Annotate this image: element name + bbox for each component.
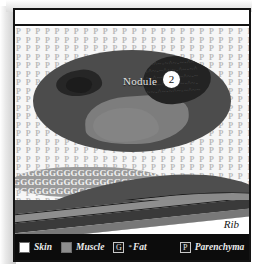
- anatomy-figure: P P P P P P P P P P P P P P P P P P P P …: [0, 0, 257, 270]
- legend-fat-marker: *: [128, 243, 132, 251]
- legend-swatch-parenchyma-icon: P: [180, 242, 191, 253]
- nodule-shape: ~~^~-~^~-~-^~~ -^~-~^~~-^~-~^ ~-^~~-^~-~…: [33, 50, 231, 152]
- rib-label: Rib: [224, 218, 239, 230]
- legend-item-skin: Skin: [19, 242, 52, 253]
- legend-label-muscle: Muscle: [76, 242, 105, 252]
- legend-swatch-fat-icon: G: [113, 242, 124, 253]
- legend-item-muscle: Muscle: [61, 242, 105, 253]
- nodule-dark-blob-left-core: [66, 77, 92, 93]
- skin-layer-band: [15, 10, 249, 26]
- legend-label-skin: Skin: [34, 242, 52, 252]
- nodule-number-badge: 2: [163, 71, 180, 88]
- tissue-canvas: P P P P P P P P P P P P P P P P P P P P …: [15, 28, 249, 218]
- legend-label-parenchyma: Parenchyma: [195, 242, 245, 252]
- nodule-inner-core: [93, 108, 159, 142]
- figure-frame: P P P P P P P P P P P P P P P P P P P P …: [13, 8, 251, 262]
- legend-bar: Skin Muscle G * Fat P Parenchyma: [15, 234, 249, 260]
- nodule-label: Nodule: [123, 75, 157, 87]
- legend-swatch-skin-icon: [19, 242, 30, 253]
- legend-item-fat: G * Fat: [113, 242, 146, 253]
- legend-item-parenchyma: P Parenchyma: [180, 242, 245, 253]
- legend-swatch-muscle-icon: [61, 242, 72, 253]
- legend-label-fat: Fat: [133, 242, 147, 252]
